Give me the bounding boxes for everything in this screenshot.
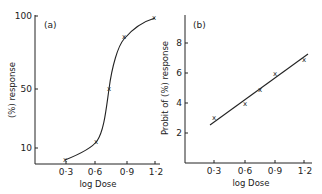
x-tick-a-2: 0·9 xyxy=(120,167,135,177)
x-tick-a-1: 0·6 xyxy=(88,167,103,177)
panel-b: 8 6 4 2 0·3 0·6 0·9 1·2 log Dose Probit … xyxy=(160,15,312,188)
y-tick-b-8: 8 xyxy=(176,38,182,48)
svg-text:x: x xyxy=(212,114,216,122)
x-label-a: log Dose xyxy=(79,179,116,189)
y-label-b: Probit of (%) response xyxy=(160,41,170,135)
x-tick-b-1: 0·6 xyxy=(238,166,253,176)
y-tick-b-2: 2 xyxy=(176,128,182,138)
x-tick-a-0: 0·3 xyxy=(59,167,73,177)
markers-a: x x x x x xyxy=(63,14,156,164)
x-tick-b-0: 0·3 xyxy=(207,166,221,176)
svg-text:x: x xyxy=(258,86,262,94)
x-tick-a-3: 1·2 xyxy=(149,167,163,177)
svg-text:x: x xyxy=(94,138,98,146)
x-tick-b-3: 1·2 xyxy=(298,166,312,176)
svg-text:x: x xyxy=(302,56,306,64)
svg-text:x: x xyxy=(63,156,67,164)
svg-text:x: x xyxy=(152,14,156,22)
svg-text:x: x xyxy=(243,100,247,108)
y-tick-a-10: 10 xyxy=(21,143,33,153)
y-tick-b-6: 6 xyxy=(176,68,182,78)
y-tick-a-100: 100 xyxy=(15,11,32,21)
svg-text:x: x xyxy=(122,33,126,41)
figure: 100 50 10 0·3 0·6 0·9 1·2 log Dose (%) r… xyxy=(0,0,322,194)
y-tick-b-4: 4 xyxy=(176,98,182,108)
panel-label-b: (b) xyxy=(193,20,206,30)
y-tick-a-50: 50 xyxy=(21,84,33,94)
panel-label-a: (a) xyxy=(44,20,57,30)
panel-a: 100 50 10 0·3 0·6 0·9 1·2 log Dose (%) r… xyxy=(7,11,163,189)
y-label-a: (%) response xyxy=(7,62,17,118)
svg-text:x: x xyxy=(107,85,111,93)
svg-text:x: x xyxy=(273,70,277,78)
x-label-b: log Dose xyxy=(232,178,269,188)
x-tick-b-2: 0·9 xyxy=(268,166,283,176)
